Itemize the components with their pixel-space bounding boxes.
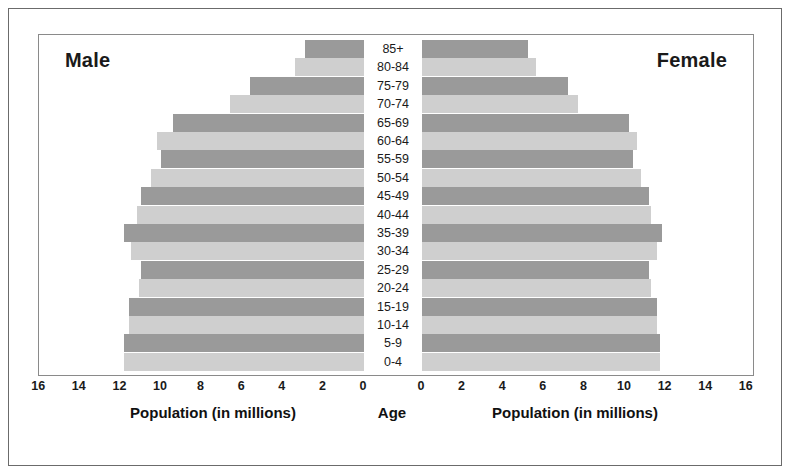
age-group-label: 15-19 <box>365 298 421 316</box>
age-group-label: 40-44 <box>365 206 421 224</box>
age-group-label: 80-84 <box>365 58 421 76</box>
male-axis-tick: 12 <box>104 379 134 393</box>
female-bar <box>422 58 536 76</box>
male-axis-caption: Population (in millions) <box>68 404 358 421</box>
male-bar <box>161 150 364 168</box>
female-bar <box>422 40 528 58</box>
male-bar <box>131 242 364 260</box>
female-bar <box>422 132 637 150</box>
female-bar <box>422 316 657 334</box>
male-bar <box>173 114 364 132</box>
male-bar <box>157 132 364 150</box>
male-bar <box>141 187 364 205</box>
age-group-label: 10-14 <box>365 316 421 334</box>
age-group-label: 30-34 <box>365 242 421 260</box>
male-axis-tick: 2 <box>307 379 337 393</box>
female-bar <box>422 242 657 260</box>
female-bar <box>422 224 662 242</box>
female-bar <box>422 279 651 297</box>
male-axis-tick: 6 <box>226 379 256 393</box>
age-group-label: 0-4 <box>365 353 421 371</box>
age-group-label: 75-79 <box>365 77 421 95</box>
male-axis-tick: 14 <box>64 379 94 393</box>
male-bar <box>137 206 364 224</box>
female-axis-caption: Population (in millions) <box>430 404 720 421</box>
age-group-label: 50-54 <box>365 169 421 187</box>
male-axis-tick: 0 <box>348 379 378 393</box>
male-bar <box>305 40 364 58</box>
male-bar <box>141 261 364 279</box>
female-bar <box>422 95 578 113</box>
age-group-label: 25-29 <box>365 261 421 279</box>
male-bar <box>129 298 364 316</box>
male-axis-tick: 10 <box>145 379 175 393</box>
female-bar <box>422 169 641 187</box>
female-axis-tick: 16 <box>731 379 761 393</box>
male-bar <box>230 95 364 113</box>
male-bar <box>139 279 364 297</box>
male-bar <box>250 77 364 95</box>
female-axis-tick: 0 <box>406 379 436 393</box>
female-bar <box>422 334 660 352</box>
age-group-label: 20-24 <box>365 279 421 297</box>
female-bar <box>422 77 568 95</box>
male-axis-tick: 4 <box>267 379 297 393</box>
age-axis-caption: Age <box>356 404 428 421</box>
male-axis-tick: 16 <box>23 379 53 393</box>
female-axis-tick: 8 <box>568 379 598 393</box>
male-axis-tick: 8 <box>186 379 216 393</box>
male-bar <box>124 224 364 242</box>
plot-frame: Male Female 85+80-8475-7970-7465-6960-64… <box>38 34 754 376</box>
female-bar <box>422 114 629 132</box>
female-axis-tick: 4 <box>487 379 517 393</box>
female-bar <box>422 353 660 371</box>
male-bar <box>129 316 364 334</box>
female-axis-tick: 6 <box>528 379 558 393</box>
age-label-gutter: 85+80-8475-7970-7465-6960-6455-5950-5445… <box>365 35 421 375</box>
age-group-label: 85+ <box>365 40 421 58</box>
female-axis-tick: 14 <box>690 379 720 393</box>
population-pyramid-figure: Male Female 85+80-8475-7970-7465-6960-64… <box>0 0 792 476</box>
female-bar <box>422 298 657 316</box>
male-bar <box>295 58 364 76</box>
axis-captions: Population (in millions) Age Population … <box>0 404 792 428</box>
female-bar <box>422 150 633 168</box>
male-bar <box>124 334 364 352</box>
female-bar <box>422 261 649 279</box>
age-group-label: 65-69 <box>365 114 421 132</box>
female-axis-tick: 12 <box>650 379 680 393</box>
age-group-label: 55-59 <box>365 150 421 168</box>
age-group-label: 70-74 <box>365 95 421 113</box>
female-bar <box>422 187 649 205</box>
age-group-label: 35-39 <box>365 224 421 242</box>
male-bar <box>124 353 364 371</box>
axis-tick-labels: 16141210864200246810121416 <box>0 379 792 397</box>
female-axis-tick: 10 <box>609 379 639 393</box>
age-group-label: 5-9 <box>365 334 421 352</box>
age-group-label: 60-64 <box>365 132 421 150</box>
male-bar <box>151 169 364 187</box>
female-bar <box>422 206 651 224</box>
female-axis-tick: 2 <box>447 379 477 393</box>
age-group-label: 45-49 <box>365 187 421 205</box>
